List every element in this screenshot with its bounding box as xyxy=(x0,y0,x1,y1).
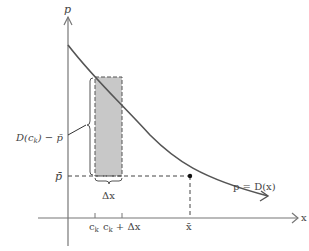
y-axis-label: p xyxy=(64,3,71,16)
delta-x-brace-icon xyxy=(95,178,122,184)
equilibrium-point xyxy=(188,174,192,178)
p-bar-label: p̄ xyxy=(55,170,62,183)
ck-plus-dx-label: ck+ Δx xyxy=(103,221,141,234)
height-pointer-line xyxy=(68,125,86,135)
y-axis xyxy=(64,17,72,246)
curve-arrow-icon xyxy=(260,191,268,201)
x-axis-label: x xyxy=(301,212,307,223)
x-bar-label: x̄ xyxy=(186,221,192,232)
delta-x-label: Δx xyxy=(102,190,115,201)
x-axis xyxy=(38,213,298,223)
height-brace-icon xyxy=(87,78,93,175)
demand-curve-diagram: p x p = D(x) p̄ Δx x̄ ck ck+ Δx D(ck) − … xyxy=(0,0,309,251)
ck-label: ck xyxy=(89,221,100,234)
curve-label: p = D(x) xyxy=(233,181,276,192)
height-label: D(ck) − p̄ xyxy=(15,132,63,145)
